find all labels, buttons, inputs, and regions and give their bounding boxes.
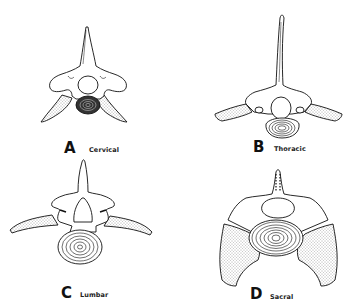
thoracic-vertebra [215, 15, 342, 138]
panel-a-letter: A [64, 141, 76, 156]
sacral-vertebra [220, 170, 337, 286]
cervical-vertebra [41, 27, 127, 122]
lumbar-vertebra [10, 160, 152, 264]
vertebrae-figure: A Cervical B Thoracic C Lumbar D Sacral [0, 0, 354, 307]
panel-b-letter: B [253, 140, 264, 155]
panel-c-letter: C [61, 286, 72, 301]
panel-a-name: Cervical [89, 147, 119, 154]
panel-d-name: Sacral [270, 294, 293, 301]
panel-c-name: Lumbar [80, 292, 108, 299]
vertebrae-illustration [0, 0, 354, 307]
panel-b-name: Thoracic [274, 146, 306, 153]
panel-d-letter: D [250, 287, 262, 302]
